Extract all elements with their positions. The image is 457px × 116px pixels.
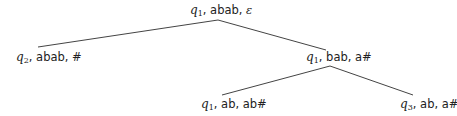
node-stack: a# — [355, 50, 372, 64]
edge-root-right — [218, 20, 326, 50]
node-right-left: q1, ab, ab# — [201, 97, 267, 115]
node-stack: a# — [442, 97, 457, 111]
node-state: q3 — [400, 97, 413, 111]
node-input: abab — [36, 50, 65, 64]
computation-tree-diagram: q1, abab, ε q2, abab, # q1, bab, a# q1, … — [0, 0, 457, 116]
edge-right-rightleft — [222, 66, 330, 95]
node-state: q2 — [16, 50, 29, 64]
node-stack: ε — [246, 3, 252, 17]
node-state: q1 — [190, 3, 203, 17]
node-root: q1, abab, ε — [190, 3, 252, 21]
node-left: q2, abab, # — [16, 50, 82, 68]
node-input: ab — [420, 97, 434, 111]
node-right: q1, bab, a# — [306, 50, 372, 68]
node-state: q1 — [306, 50, 319, 64]
edge-right-rightright — [330, 66, 413, 95]
node-state: q1 — [201, 97, 214, 111]
node-input: bab — [326, 50, 348, 64]
node-right-right: q3, ab, a# — [400, 97, 457, 115]
edge-root-left — [38, 20, 218, 47]
node-input: abab — [210, 3, 239, 17]
node-input: ab — [221, 97, 235, 111]
node-stack: ab# — [243, 97, 267, 111]
node-stack: # — [72, 50, 82, 64]
